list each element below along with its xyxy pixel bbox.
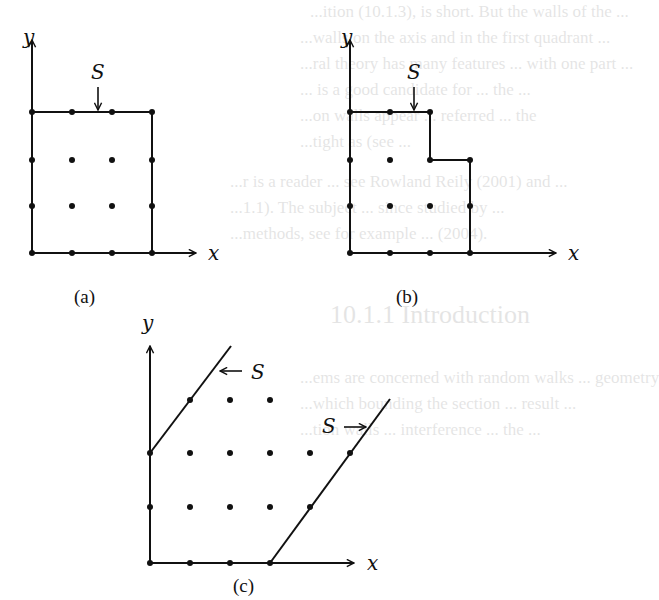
panel-a (32, 40, 196, 253)
panel-b-lattice-points (347, 109, 473, 256)
wall-boundary (32, 112, 152, 253)
stepped-wall-boundary (350, 112, 470, 253)
surface-label: S (407, 60, 421, 84)
panel-a-lattice-points (29, 109, 155, 256)
caption-c: (c) (233, 575, 254, 597)
x-axis-label: x (208, 241, 219, 265)
surface-label-left: S (251, 360, 265, 384)
y-axis-label: y (340, 25, 353, 49)
surface-label: S (91, 60, 105, 84)
y-axis-label: y (141, 311, 154, 335)
x-axis-label: x (568, 241, 579, 265)
x-axis-label: x (367, 551, 378, 575)
panel-b (350, 40, 556, 253)
surface-label-right: S (322, 414, 336, 438)
caption-a: (a) (74, 286, 95, 308)
y-axis-label: y (22, 25, 35, 49)
caption-b: (b) (396, 286, 418, 308)
